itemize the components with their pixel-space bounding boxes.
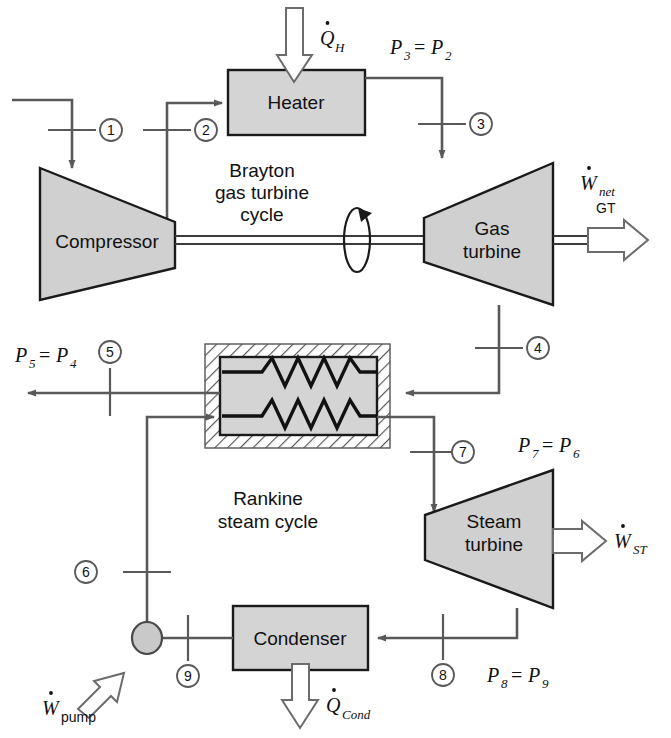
p4-symbol: P: [55, 344, 68, 366]
gas-turbine-shaft: [175, 236, 424, 244]
work-input-label-wpump: W pump: [42, 691, 96, 725]
Wpump-dot: [49, 691, 53, 695]
gas-turbine-label-line1: Gas: [475, 218, 510, 239]
p5-subscript: 5: [29, 356, 36, 371]
p7-p6-equals: =: [542, 434, 553, 456]
p7-symbol: P: [517, 434, 530, 456]
state-point-1-label: 1: [107, 122, 115, 138]
p6-subscript: 6: [573, 446, 580, 461]
QH-symbol: Q: [320, 27, 335, 49]
steam-turbine: Steam turbine: [425, 470, 553, 608]
p5-p4-equals: =: [39, 344, 50, 366]
heater-to-gasturbine-line: [365, 78, 466, 158]
hx-core: [220, 357, 377, 435]
pressure-relation-p3-p2: P 3 = P 2: [389, 36, 452, 63]
p9-subscript: 9: [542, 676, 549, 691]
state-point-3-label: 3: [477, 116, 485, 132]
state-point-2: 2: [195, 119, 217, 141]
gasturbine-to-hx-line: [406, 305, 523, 393]
heat-exchanger: [205, 344, 390, 448]
p2-symbol: P: [430, 36, 443, 58]
heater-label: Heater: [267, 92, 325, 113]
state-point-8: 8: [432, 664, 454, 686]
gas-turbine-label-line2: turbine: [463, 241, 521, 262]
condenser-label: Condenser: [254, 628, 348, 649]
p2-subscript: 2: [445, 48, 452, 63]
pressure-relation-p7-p6: P 7 = P 6: [517, 434, 580, 461]
p8-symbol: P: [486, 664, 499, 686]
heat-input-label-QH: Q H: [320, 21, 345, 55]
brayton-line3: cycle: [240, 204, 283, 225]
steam-turbine-label-line2: turbine: [465, 534, 523, 555]
work-output-arrow-wst: [553, 521, 606, 561]
QH-dot: [326, 21, 330, 25]
Qcond-symbol: Q: [326, 694, 341, 716]
p3-subscript: 3: [403, 48, 411, 63]
state-point-7-label: 7: [459, 444, 467, 460]
state-point-3: 3: [470, 113, 492, 135]
rankine-line2: steam cycle: [218, 511, 318, 532]
pressure-relation-p5-p4: P 5 = P 4: [14, 344, 77, 371]
Wst-subscript: ST: [633, 542, 648, 557]
state-point-6-label: 6: [82, 564, 90, 580]
QH-subscript: H: [334, 40, 345, 55]
state-point-5: 5: [99, 341, 121, 363]
compressor-label: Compressor: [55, 231, 159, 252]
Wnet-dot: [587, 166, 591, 170]
heat-reject-label-qcond: Q Cond: [326, 688, 371, 722]
rankine-line1: Rankine: [233, 488, 303, 509]
p8-subscript: 8: [501, 676, 508, 691]
brayton-cycle-label: Brayton gas turbine cycle: [215, 160, 309, 225]
state-point-6: 6: [75, 561, 97, 583]
combined-cycle-diagram: 1 2 Compressor Heater Q H P 3 = P 2: [0, 0, 671, 738]
state-point-8-label: 8: [439, 667, 447, 683]
p7-subscript: 7: [532, 446, 539, 461]
Wnet-gt-subscript: GT: [596, 200, 616, 216]
state-point-9-label: 9: [184, 668, 192, 684]
state-point-1: 1: [100, 119, 122, 141]
Wst-dot: [621, 524, 625, 528]
p6-symbol: P: [558, 434, 571, 456]
Qcond-dot: [332, 688, 336, 692]
steamturbine-to-condenser-line: [378, 608, 517, 660]
p3-p2-equals: =: [414, 36, 425, 58]
Qcond-subscript: Cond: [342, 707, 371, 722]
Wpump-symbol: W: [42, 697, 61, 719]
heat-reject-arrow-qcond: [282, 664, 318, 728]
state-point-7: 7: [452, 441, 474, 463]
shaft-rotation-indicator: [344, 208, 372, 272]
Wnet-symbol: W: [580, 172, 599, 194]
compressor: Compressor: [40, 168, 175, 300]
pump-to-hx-line: [123, 417, 214, 638]
state-point-9: 9: [177, 665, 199, 687]
work-output-label-wst: W ST: [614, 524, 648, 557]
brayton-line1: Brayton: [229, 160, 294, 181]
Wst-symbol: W: [614, 530, 633, 552]
brayton-line2: gas turbine: [215, 182, 309, 203]
condenser: Condenser: [233, 606, 368, 670]
p9-symbol: P: [527, 664, 540, 686]
p4-subscript: 4: [70, 356, 77, 371]
p8-p9-equals: =: [511, 664, 522, 686]
state-point-4: 4: [527, 337, 549, 359]
p5-symbol: P: [14, 344, 27, 366]
state-point-5-label: 5: [106, 344, 114, 360]
work-output-label-wnet-gt: W net GT: [580, 166, 616, 216]
p3-symbol: P: [389, 36, 402, 58]
rankine-cycle-label: Rankine steam cycle: [218, 488, 318, 532]
pressure-relation-p8-p9: P 8 = P 9: [486, 664, 549, 691]
steam-turbine-label-line1: Steam: [467, 511, 522, 532]
Wpump-subscript: pump: [61, 709, 96, 725]
inlet-line-state1: [12, 100, 96, 168]
state-point-2-label: 2: [202, 122, 210, 138]
condenser-to-pump-line: [152, 615, 233, 661]
work-output-arrow-wnet-gt: [553, 220, 648, 260]
hx-exit-line-state5: [28, 368, 220, 416]
Wnet-subscript: net: [599, 184, 615, 199]
gas-turbine: Gas turbine: [424, 163, 553, 305]
pump: [132, 622, 162, 654]
state-point-4-label: 4: [534, 340, 542, 356]
